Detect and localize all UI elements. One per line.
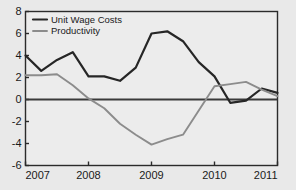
legend-label-productivity: Productivity xyxy=(51,25,100,36)
x-tick-label: 2011 xyxy=(254,169,278,181)
y-tick-label: 2 xyxy=(15,71,21,83)
y-tick-label: 0 xyxy=(15,93,21,105)
y-tick-label: -6 xyxy=(12,159,22,171)
y-tick-label: -2 xyxy=(12,115,22,127)
x-tick-label: 2008 xyxy=(76,169,100,181)
line-chart: 86420-2-4-6 20072008200920102011 Unit Wa… xyxy=(0,0,296,190)
y-tick-label: 6 xyxy=(15,27,21,39)
x-tick-label: 2009 xyxy=(139,169,163,181)
legend-label-unit-wage-costs: Unit Wage Costs xyxy=(51,14,122,25)
chart-figure: 86420-2-4-6 20072008200920102011 Unit Wa… xyxy=(0,0,296,190)
x-tick-label: 2010 xyxy=(202,169,226,181)
y-tick-label: -4 xyxy=(12,137,22,149)
y-tick-label: 8 xyxy=(15,5,21,17)
y-tick-label: 4 xyxy=(15,49,21,61)
x-tick-label: 2007 xyxy=(26,169,50,181)
